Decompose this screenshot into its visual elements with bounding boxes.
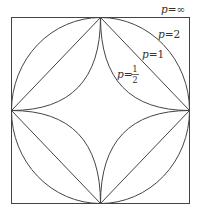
curve-p-1-diamond [12, 18, 190, 204]
curve-p-2-circle [12, 18, 190, 204]
label-p-infinity: p=∞ [161, 3, 185, 15]
svg-text:p=: p= [117, 68, 133, 80]
fraction-denominator: 2 [132, 75, 137, 85]
label-p-half: p= 1 2 [117, 64, 139, 85]
label-p-2: p=2 [158, 28, 180, 40]
curve-p-half-astroid [12, 18, 190, 204]
fraction-numerator: 1 [132, 64, 137, 74]
lp-unit-ball-diagram: p=∞ p=2 p=1 p= 1 2 [0, 0, 199, 211]
label-p-1: p=1 [142, 48, 164, 60]
curve-p-infinity-square [12, 18, 190, 204]
